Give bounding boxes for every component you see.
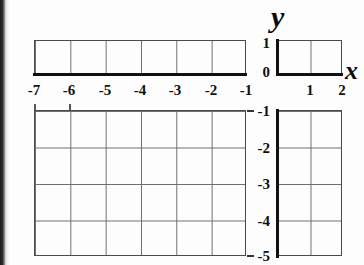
x-axis-label: x: [345, 58, 358, 84]
y-axis-line-upper: [276, 39, 279, 76]
scan-edge-artifact-fade: [6, 0, 9, 265]
y-axis-line-lower: [276, 109, 279, 258]
y-tick-label: 1: [246, 36, 270, 51]
grid-quadrant-upper-right: [277, 40, 342, 75]
y-tick-label: -3: [246, 177, 270, 192]
x-tick-label: -2: [196, 83, 226, 98]
x-tick-label: -7: [19, 83, 49, 98]
x-tick-label: -3: [160, 83, 190, 98]
x-tick-label: 1: [295, 83, 325, 98]
x-tick-label: 2: [327, 83, 357, 98]
y-tick-label: -4: [246, 214, 270, 229]
x-tick-label: -5: [90, 83, 120, 98]
x-tick-label: -6: [54, 83, 84, 98]
x-tick-label: -4: [125, 83, 155, 98]
y-tick-label: -1: [246, 104, 270, 119]
y-tick-label: -2: [246, 141, 270, 156]
x-tick-stub-left-2: [69, 104, 71, 110]
x-tick-stub-left: [34, 104, 36, 110]
y-axis-label: y: [271, 2, 284, 32]
coordinate-grid-figure: y x -7-6-5-4-3-2-112 10-1-2-3-4-5: [0, 0, 364, 265]
grid-quadrant-lower-left: [34, 110, 246, 256]
x-axis-line-left: [33, 73, 247, 76]
grid-quadrant-upper-left: [34, 40, 246, 75]
x-axis-line-right: [276, 73, 343, 76]
y-tick-label: -5: [246, 249, 270, 264]
grid-quadrant-lower-right: [277, 110, 342, 256]
y-tick-label: 0: [246, 65, 270, 80]
x-tick-label: -1: [231, 83, 261, 98]
